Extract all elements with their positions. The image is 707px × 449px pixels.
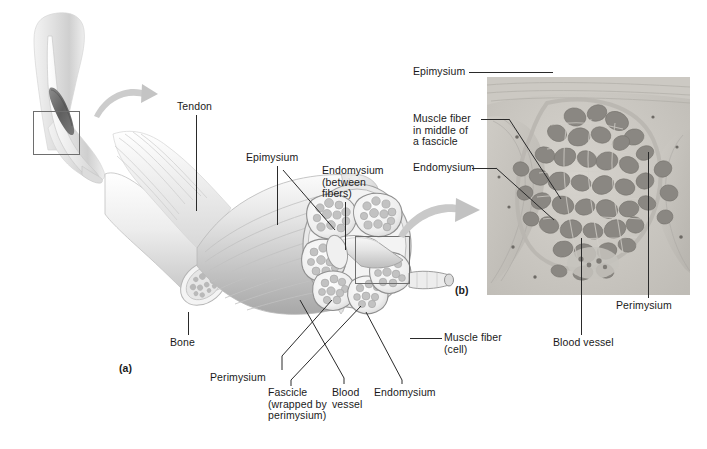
label-tendon-a: Tendon — [177, 101, 212, 113]
leader-muscle-fiber-in-fascicle-b-h — [481, 119, 509, 120]
leader-blood-vessel-b — [581, 238, 582, 335]
muscle-anatomy-figure: Tendon Epimysium Endomysium (between fib… — [0, 0, 707, 449]
label-fascicle-a-text: Fascicle (wrapped by perimysium) — [268, 386, 327, 421]
label-blood-vessel-b: Blood vessel — [553, 337, 614, 349]
leader-tendon-a — [196, 115, 197, 211]
label-muscle-fiber-in-fascicle-b: Muscle fiber in middle of a fascicle — [413, 113, 471, 148]
leader-endomysium-between-fibers-a — [345, 202, 346, 250]
panel-a-tag: (a) — [119, 363, 132, 375]
label-perimysium-b: Perimysium — [616, 300, 672, 312]
label-epimysium-a: Epimysium — [246, 152, 298, 164]
label-blood-vessel-a-text: Blood vessel — [332, 386, 362, 410]
leader-perimysium-b — [648, 152, 649, 298]
inset-selection-box — [33, 111, 80, 155]
label-bone-a: Bone — [170, 337, 195, 349]
leader-endomysium-b-h — [472, 168, 496, 169]
label-perimysium-a: Perimysium — [210, 372, 266, 384]
leader-muscle-fiber-cell-a — [410, 338, 442, 339]
panel-b-tag: (b) — [455, 285, 469, 297]
label-fascicle-a: Fascicle (wrapped by perimysium) — [268, 387, 327, 422]
label-endomysium-a: Endomysium — [374, 387, 436, 399]
curved-arrow-icon-inset-to-muscle — [92, 82, 162, 122]
label-endomysium-b: Endomysium — [413, 162, 475, 174]
leader-epimysium-a — [277, 166, 278, 225]
curved-arrow-icon-muscle-to-micrograph — [396, 196, 486, 238]
muscle-micrograph — [487, 77, 690, 295]
leader-epimysium-b — [469, 72, 553, 73]
label-muscle-fiber-in-fascicle-b-text: Muscle fiber in middle of a fascicle — [413, 112, 471, 147]
fascicle-detail-box — [355, 236, 410, 284]
leader-bone-a — [188, 312, 189, 335]
label-endomysium-between-fibers-a: Endomysium (between fibers) — [322, 165, 384, 200]
label-blood-vessel-a: Blood vessel — [332, 387, 362, 410]
label-muscle-fiber-cell-a-text: Muscle fiber (cell) — [444, 331, 502, 355]
label-endomysium-between-fibers-a-text: Endomysium (between fibers) — [322, 164, 384, 199]
label-muscle-fiber-cell-a: Muscle fiber (cell) — [444, 332, 502, 355]
label-epimysium-b: Epimysium — [413, 66, 465, 78]
